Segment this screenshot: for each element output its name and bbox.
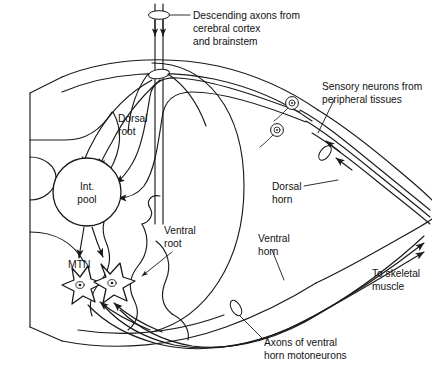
label-to-skeletal-muscle-line1: To skeletal xyxy=(372,268,420,279)
spinal-cord-diagram: Int. pool MTN xyxy=(0,0,432,369)
leader-dorsal-horn xyxy=(304,180,338,186)
label-descending-axons-line2: cerebral cortex xyxy=(193,23,260,34)
dorsal-root-ganglion-2 xyxy=(260,124,283,147)
label-axons-ventral-horn-line2: horn motoneurons xyxy=(264,350,347,361)
motor-nerve-cut-marker xyxy=(228,298,244,317)
label-dorsal-root-line1: Dorsal xyxy=(118,113,147,124)
label-descending-axons-line3: and brainstem xyxy=(193,36,258,47)
motoneuron-nucleolus-left xyxy=(79,284,82,287)
label-descending-axons-line1: Descending axons from xyxy=(193,10,300,21)
interneuron-pool-label-line2: pool xyxy=(77,194,96,205)
label-ventral-root-line1: Ventral xyxy=(164,225,196,236)
motoneuron-group: MTN xyxy=(62,259,135,304)
label-to-skeletal-muscle-line2: muscle xyxy=(372,281,405,292)
label-dorsal-horn-line1: Dorsal xyxy=(272,181,301,192)
motor-nerve-trunk xyxy=(228,298,244,317)
interneuron-pool: Int. pool xyxy=(53,158,121,226)
interneuron-pool-circle xyxy=(53,158,121,226)
figure-root: Int. pool MTN xyxy=(0,0,432,369)
motoneuron-soma-left xyxy=(62,266,103,304)
leader-ventral-root xyxy=(142,252,172,276)
label-dorsal-horn-line2: horn xyxy=(272,194,292,205)
motoneuron-label: MTN xyxy=(68,259,91,270)
label-sensory-neurons-line2: peripheral tissues xyxy=(322,94,402,105)
descending-axon-bundle xyxy=(148,4,170,224)
label-sensory-neurons-line1: Sensory neurons from xyxy=(322,81,422,92)
label-axons-ventral-horn-line1: Axons of ventral xyxy=(264,337,337,348)
motoneuron-nucleolus-right xyxy=(111,282,114,285)
interneuron-pool-label-line1: Int. xyxy=(80,181,94,192)
interneuron-to-motoneuron-axons xyxy=(79,227,103,258)
label-dorsal-root-line2: root xyxy=(118,126,136,137)
sensory-nerve-cut-marker xyxy=(316,144,334,163)
leader-lines xyxy=(142,15,338,338)
label-ventral-root-line2: root xyxy=(164,238,182,249)
descending-axon-cut-marker xyxy=(149,11,170,20)
label-ventral-horn-line2: horn xyxy=(258,246,278,257)
leader-axons-ventral-horn xyxy=(240,316,262,338)
label-ventral-horn-line1: Ventral xyxy=(258,233,290,244)
motoneuron-soma-right xyxy=(94,263,135,303)
